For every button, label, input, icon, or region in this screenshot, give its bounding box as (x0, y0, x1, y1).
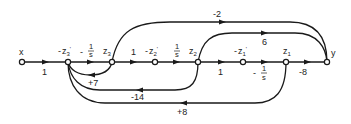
label-x: x (19, 47, 24, 57)
gain-z2p-to-z2-den: s (175, 50, 179, 59)
label-minus-z1-prime: -z1' (234, 46, 247, 57)
gain-z3p-to-z3-sign: - (80, 47, 83, 57)
gain-z1p-to-z1-sign: - (253, 68, 256, 78)
gain-z1p-to-z1-den: s (262, 73, 266, 82)
gain-z3-to-z2p: 1 (131, 47, 136, 57)
arrow-z2p-to-z2 (173, 60, 180, 65)
arrow-z3-to-y (219, 20, 226, 25)
gain-feedback-z2: -14 (131, 92, 144, 102)
node-minus-z1-prime (240, 59, 245, 64)
arrow-x-to-z3p (42, 60, 49, 65)
arrow-fb-z3 (88, 73, 95, 78)
node-minus-z2-prime (152, 59, 157, 64)
node-minus-z3-prime (65, 59, 70, 64)
label-minus-z2-prime: -z2' (145, 46, 158, 57)
gain-z3p-to-z3-den: s (89, 50, 93, 59)
node-z3 (109, 59, 114, 64)
edge-z3-to-z3p (68, 62, 112, 75)
edge-z3-to-y (112, 22, 327, 62)
node-x (19, 59, 24, 64)
gain-z1p-to-z1-num: 1 (262, 64, 266, 73)
label-y: y (331, 48, 336, 58)
node-z1 (283, 59, 288, 64)
signal-flow-graph: x -z3' z3 -z2' z2 -z1' z1 y 1 - 1 s 1 1 … (0, 0, 351, 124)
arrow-z3p-to-z3 (87, 60, 94, 65)
arrow-z1-to-y (304, 60, 311, 65)
gain-x-to-z3p: 1 (42, 67, 47, 77)
gain-feedback-z3: +7 (88, 78, 98, 88)
node-y (324, 59, 329, 64)
gain-z2-to-z1p: 1 (218, 67, 223, 77)
gain-z3-to-y: -2 (213, 9, 221, 19)
arrow-fb-z1 (180, 101, 187, 106)
node-z2 (195, 59, 200, 64)
arrow-z2-to-y (261, 31, 268, 36)
gain-z1-to-y: -8 (299, 67, 307, 77)
gain-z2-to-y: 6 (262, 37, 267, 47)
gain-feedback-z1: +8 (177, 107, 187, 117)
label-minus-z3-prime: -z3' (58, 46, 71, 57)
arrow-z2-to-z1p (218, 60, 225, 65)
label-z2: z2 (189, 46, 198, 57)
label-z1: z1 (283, 46, 292, 57)
arrow-z3-to-z2p (130, 60, 137, 65)
label-z3: z3 (103, 46, 112, 57)
